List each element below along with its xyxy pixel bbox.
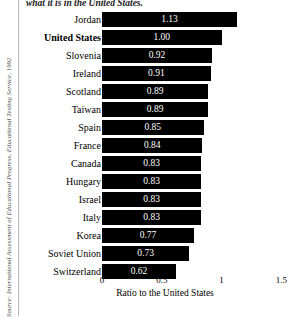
category-label: Italy bbox=[0, 211, 101, 224]
category-label: Slovenia bbox=[0, 49, 101, 62]
category-label: Spain bbox=[0, 121, 101, 134]
bar-value-label: 0.83 bbox=[102, 193, 201, 206]
category-label: Korea bbox=[0, 229, 101, 242]
bar-row: Taiwan0.89 bbox=[0, 101, 306, 119]
category-label: Taiwan bbox=[0, 103, 101, 116]
bar-row: Canada0.83 bbox=[0, 155, 306, 173]
bar-value-label: 0.85 bbox=[102, 121, 204, 134]
bar-row: Slovenia0.92 bbox=[0, 47, 306, 65]
category-label: Jordan bbox=[0, 13, 101, 26]
bar-row: Soviet Union0.73 bbox=[0, 245, 306, 263]
bar-row: Korea0.77 bbox=[0, 227, 306, 245]
category-label: Scotland bbox=[0, 85, 101, 98]
bar-value-label: 1.13 bbox=[102, 13, 237, 26]
category-label: France bbox=[0, 139, 101, 152]
bar-row: Scotland0.89 bbox=[0, 83, 306, 101]
x-tick-label: 1 bbox=[202, 274, 242, 286]
bar-row: France0.84 bbox=[0, 137, 306, 155]
bar-row: United States1.00 bbox=[0, 29, 306, 47]
bar-value-label: 0.84 bbox=[102, 139, 202, 152]
x-axis: Ratio to the United States 00.511.5 bbox=[0, 273, 306, 316]
category-label: Canada bbox=[0, 157, 101, 170]
bar-value-label: 1.00 bbox=[102, 31, 222, 44]
category-label: Israel bbox=[0, 193, 101, 206]
bar-row: Spain0.85 bbox=[0, 119, 306, 137]
bar-value-label: 0.91 bbox=[102, 67, 211, 80]
x-tick-label: 0.5 bbox=[142, 274, 182, 286]
bar-row: Hungary0.83 bbox=[0, 173, 306, 191]
bar-value-label: 0.83 bbox=[102, 175, 201, 188]
plot-area: Jordan1.13United States1.00Slovenia0.92I… bbox=[0, 11, 306, 273]
bar-value-label: 0.73 bbox=[102, 247, 189, 260]
category-label: United States bbox=[0, 31, 101, 44]
bar-value-label: 0.89 bbox=[102, 103, 208, 116]
bar-value-label: 0.77 bbox=[102, 229, 194, 242]
category-label: Hungary bbox=[0, 175, 101, 188]
x-tick-label: 1.5 bbox=[261, 274, 301, 286]
x-tick-label: 0 bbox=[82, 274, 122, 286]
bar-row: Jordan1.13 bbox=[0, 11, 306, 29]
caption-fragment: what it is in the United States. bbox=[26, 0, 276, 9]
x-axis-label: Ratio to the United States bbox=[0, 287, 306, 299]
bar-value-label: 0.83 bbox=[102, 157, 201, 170]
category-label: Soviet Union bbox=[0, 247, 101, 260]
category-label: Ireland bbox=[0, 67, 101, 80]
bar-value-label: 0.83 bbox=[102, 211, 201, 224]
bar-value-label: 0.92 bbox=[102, 49, 212, 62]
bar-row: Italy0.83 bbox=[0, 209, 306, 227]
bar-row: Israel0.83 bbox=[0, 191, 306, 209]
bar-row: Ireland0.91 bbox=[0, 65, 306, 83]
bar-value-label: 0.89 bbox=[102, 85, 208, 98]
